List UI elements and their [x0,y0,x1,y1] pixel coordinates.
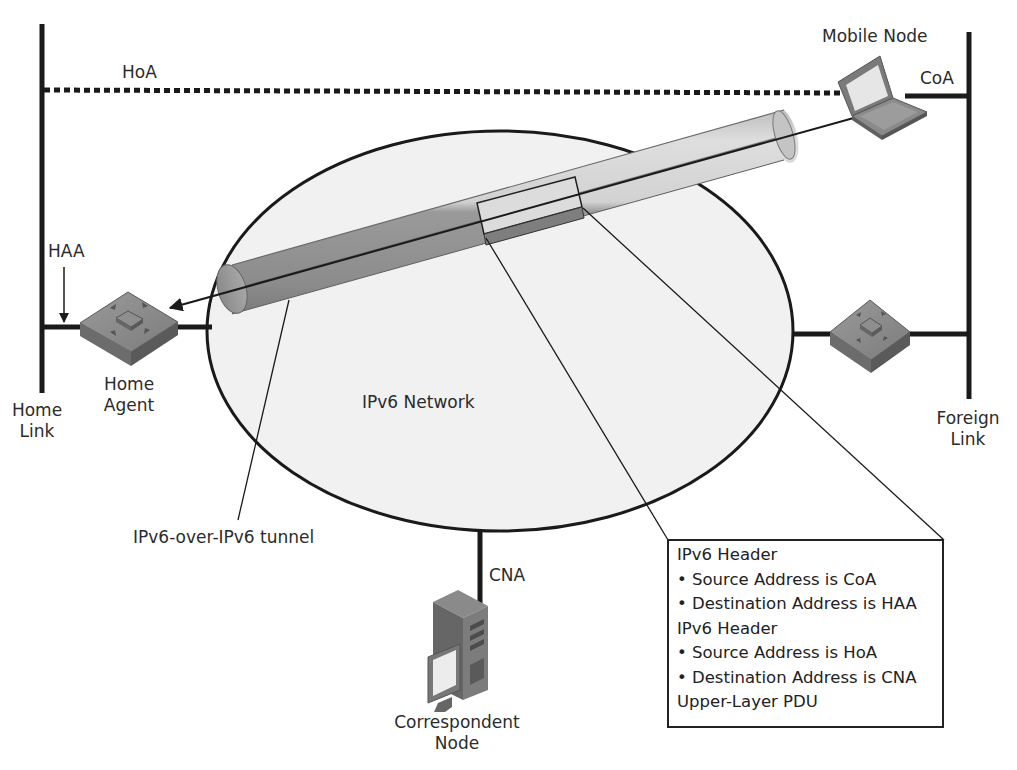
mobile-node-label: Mobile Node [822,26,928,47]
upper-layer-pdu-label: Upper-Layer PDU [677,690,942,715]
foreign-link-label-line2: Link [928,429,1008,450]
inner-ipv6-header-label: IPv6 Header [677,617,942,642]
foreign-link-label-line1: Foreign [928,408,1008,429]
inner-source-address-item: • Source Address is HoA [677,641,942,666]
home-link-label: Home Link [4,400,70,442]
outer-source-address-item: • Source Address is CoA [677,568,942,593]
care-of-address-label: CoA [920,68,954,89]
home-address-label: HoA [122,62,157,83]
home-agent-router-icon[interactable] [80,292,178,366]
inner-destination-address-item: • Destination Address is CNA [677,666,942,691]
home-link-label-line1: Home [4,400,70,421]
home-link-label-line2: Link [4,421,70,442]
outer-ipv6-header-label: IPv6 Header [677,543,942,568]
correspondent-node-address-label: CNA [489,565,525,586]
correspondent-node-label-line2: Node [380,733,534,754]
correspondent-node-label-line1: Correspondent [380,712,534,733]
outer-destination-address-item: • Destination Address is HAA [677,592,942,617]
home-agent-label-line2: Agent [94,395,164,416]
correspondent-node-label: Correspondent Node [380,712,534,754]
foreign-link-label: Foreign Link [928,408,1008,450]
home-address-dotted-line [44,90,845,93]
packet-structure-callout: IPv6 Header • Source Address is CoA • De… [667,539,944,728]
foreign-router-icon[interactable] [830,300,910,373]
home-agent-label: Home Agent [94,374,164,416]
home-agent-label-line1: Home [94,374,164,395]
home-agent-address-label: HAA [48,241,85,262]
ipv6-network-label: IPv6 Network [362,392,475,413]
tunnel-label: IPv6-over-IPv6 tunnel [133,527,314,548]
correspondent-node-computer-icon[interactable] [428,590,488,712]
